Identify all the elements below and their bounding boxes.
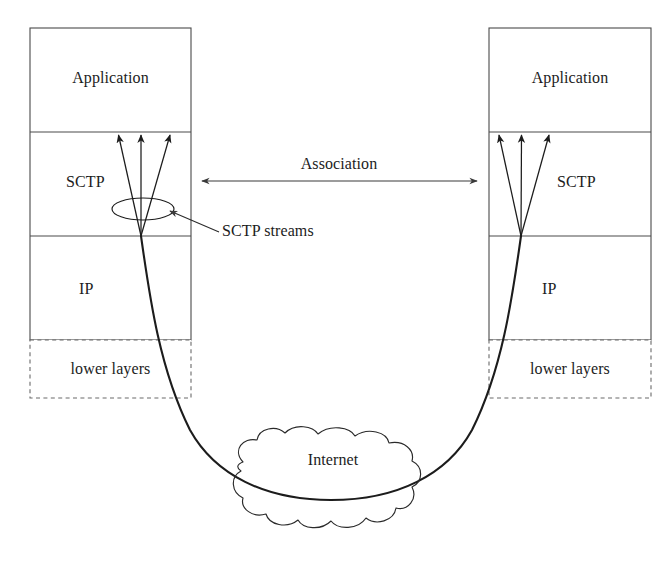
- left-layer-label-application: Application: [30, 70, 191, 86]
- internet-label: Internet: [288, 452, 378, 468]
- right-layer-label-ip: IP: [542, 281, 556, 297]
- left-layer-label-ip: IP: [79, 281, 93, 297]
- right-layer-label-sctp: SCTP: [557, 174, 596, 190]
- internet-cloud-shape: [233, 427, 420, 528]
- sctp-association-diagram: Application SCTP IP lower layers Applica…: [0, 0, 672, 561]
- left-layer-label-lower-layers: lower layers: [30, 361, 191, 377]
- sctp-streams-label: SCTP streams: [222, 223, 314, 239]
- association-label: Association: [249, 156, 429, 172]
- left-layer-label-sctp: SCTP: [66, 174, 105, 190]
- right-layer-label-application: Application: [489, 70, 651, 86]
- right-layer-label-lower-layers: lower layers: [489, 361, 651, 377]
- right-stream-arrow-2: [521, 135, 522, 236]
